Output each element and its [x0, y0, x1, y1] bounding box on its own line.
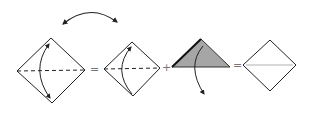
double-arrow-arc-icon	[63, 12, 117, 24]
equals-sign-1: =	[90, 64, 99, 75]
step-2-diamond	[104, 42, 160, 96]
origami-diagram: = + =	[0, 0, 315, 114]
plus-sign: +	[162, 62, 171, 73]
step-4-diamond	[243, 40, 296, 91]
diagram-canvas	[0, 0, 315, 114]
equals-sign-2: =	[233, 60, 242, 71]
dashed-crease-line	[17, 70, 85, 71]
step-1-diamond	[17, 38, 85, 103]
dashed-crease-line	[104, 68, 160, 69]
step-3-triangle	[172, 39, 230, 94]
